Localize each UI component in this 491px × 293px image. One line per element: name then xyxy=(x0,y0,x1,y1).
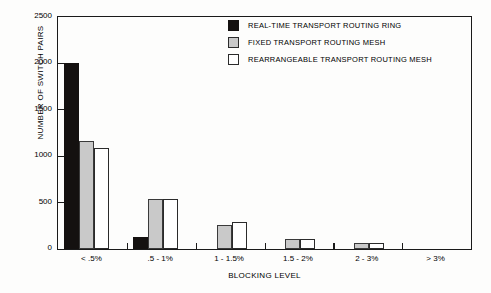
bar xyxy=(163,199,178,249)
y-axis-tick-label: 2500 xyxy=(22,12,52,20)
chart-figure: NUMBER OF SWITCH PAIRS 05001000150020002… xyxy=(0,0,491,293)
legend-swatch-icon xyxy=(228,20,239,31)
bar xyxy=(354,243,369,249)
legend-label: FIXED TRANSPORT ROUTING MESH xyxy=(248,38,385,47)
legend-item: FIXED TRANSPORT ROUTING MESH xyxy=(228,35,474,50)
x-axis-tick xyxy=(333,243,334,249)
x-axis-tick-label: 1.5 - 2% xyxy=(283,254,313,263)
x-axis-tick-label: 2 - 3% xyxy=(355,254,378,263)
bar xyxy=(300,239,315,249)
x-axis-tick xyxy=(402,243,403,249)
bar xyxy=(148,199,163,249)
x-axis-tick-label: < .5% xyxy=(81,254,102,263)
bar xyxy=(79,141,94,249)
x-axis-tick-label: > 3% xyxy=(426,254,444,263)
x-axis-tick-label: 1 - 1.5% xyxy=(214,254,244,263)
x-axis-tick xyxy=(127,243,128,249)
x-axis-tick-labels: < .5%.5 - 1%1 - 1.5%1.5 - 2%2 - 3%> 3% xyxy=(57,254,472,268)
bar xyxy=(94,148,109,249)
bar xyxy=(232,222,247,249)
legend-item: REAL-TIME TRANSPORT ROUTING RING xyxy=(228,18,474,33)
bar xyxy=(133,237,148,249)
legend-swatch-icon xyxy=(228,37,239,48)
bar xyxy=(369,243,384,249)
legend-label: REAL-TIME TRANSPORT ROUTING RING xyxy=(248,21,401,30)
bar xyxy=(64,63,79,249)
legend-label: REARRANGEABLE TRANSPORT ROUTING MESH xyxy=(248,55,432,64)
bar xyxy=(217,225,232,249)
legend-item: REARRANGEABLE TRANSPORT ROUTING MESH xyxy=(228,52,474,67)
y-axis-tick-labels: 05001000150020002500 xyxy=(18,0,52,293)
x-axis-title: BLOCKING LEVEL xyxy=(57,271,472,280)
y-axis-tick-label: 1500 xyxy=(22,105,52,113)
y-axis-tick-label: 1000 xyxy=(22,151,52,159)
x-axis-tick-label: .5 - 1% xyxy=(148,254,173,263)
x-axis-tick xyxy=(196,243,197,249)
chart-legend: REAL-TIME TRANSPORT ROUTING RINGFIXED TR… xyxy=(228,18,474,69)
y-axis-tick-label: 2000 xyxy=(22,58,52,66)
bar xyxy=(285,239,300,249)
y-axis-tick-label: 500 xyxy=(22,198,52,206)
legend-swatch-icon xyxy=(228,54,239,65)
x-axis-tick xyxy=(265,243,266,249)
y-axis-tick-label: 0 xyxy=(22,244,52,252)
